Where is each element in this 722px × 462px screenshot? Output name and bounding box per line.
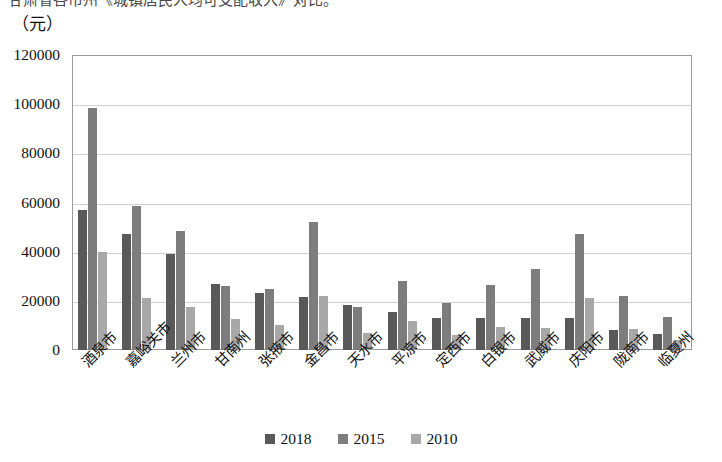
x-axis-tick-label: 陇南市 xyxy=(608,326,653,371)
legend-item-2018[interactable]: 2018 xyxy=(265,430,312,448)
x-axis-tick-label: 张掖市 xyxy=(253,326,298,371)
x-axis-tick-label: 庆阳市 xyxy=(563,326,608,371)
x-axis-tick-label: 天水市 xyxy=(342,326,387,371)
x-axis: 酒泉市嘉峪关市兰州市甘南州张掖市金昌市天水市平凉市定西市白银市武威市庆阳市陇南市… xyxy=(0,0,722,462)
legend-swatch-icon xyxy=(411,434,421,444)
x-axis-tick-label: 白银市 xyxy=(475,326,520,371)
x-axis-tick-label: 平凉市 xyxy=(386,326,431,371)
x-axis-tick-label: 酒泉市 xyxy=(76,326,121,371)
legend-item-2010[interactable]: 2010 xyxy=(411,430,458,448)
x-axis-tick-label: 嘉峪关市 xyxy=(120,316,174,370)
bar-chart: （元） 020000400006000080000100000120000 酒泉… xyxy=(0,0,722,462)
legend-swatch-icon xyxy=(338,434,348,444)
x-axis-tick-label: 甘南州 xyxy=(209,326,254,371)
x-axis-tick-label: 金昌市 xyxy=(298,326,343,371)
legend-label: 2010 xyxy=(427,430,458,448)
x-axis-tick-label: 武威市 xyxy=(519,326,564,371)
legend-swatch-icon xyxy=(265,434,275,444)
x-axis-tick-label: 临夏州 xyxy=(652,326,697,371)
legend-item-2015[interactable]: 2015 xyxy=(338,430,385,448)
legend-label: 2015 xyxy=(354,430,385,448)
legend-label: 2018 xyxy=(281,430,312,448)
x-axis-tick-label: 定西市 xyxy=(430,326,475,371)
chart-legend: 201820152010 xyxy=(0,430,722,448)
